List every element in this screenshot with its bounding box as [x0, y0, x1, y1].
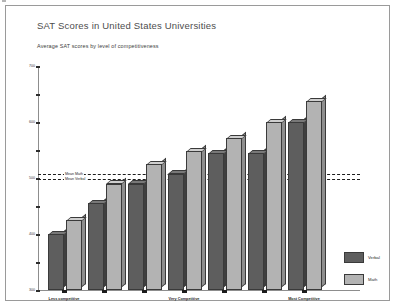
bar-face	[306, 101, 322, 290]
bar-side	[82, 214, 86, 287]
bar-group	[288, 65, 328, 290]
legend-swatch-math	[344, 274, 364, 285]
bar-face	[128, 184, 144, 290]
bar-verbal	[288, 122, 304, 290]
bar-side	[162, 158, 166, 287]
legend-label-verbal: Verbal	[368, 255, 380, 260]
x-axis-label: Most Competitive	[288, 297, 320, 301]
tick-mark	[36, 122, 40, 124]
bar-math	[226, 138, 242, 290]
chart-frame: SAT Scores in United States Universities…	[5, 5, 390, 301]
scan-artifact	[2, 0, 6, 2]
bar-side	[322, 95, 326, 287]
x-axis-tick	[182, 290, 187, 293]
bar-verbal	[88, 203, 104, 290]
x-axis-tick	[102, 290, 107, 293]
bar-verbal	[128, 184, 144, 290]
chart-subtitle: Average SAT scores by level of competiti…	[37, 43, 159, 49]
bar-verbal	[248, 153, 264, 290]
tick-mark	[36, 290, 40, 292]
x-axis-tick	[62, 290, 67, 293]
tick-mark	[36, 234, 40, 236]
x-axis-tick	[302, 290, 307, 293]
bar-face	[226, 138, 242, 290]
x-axis-tick	[142, 290, 147, 293]
bar-face	[186, 151, 202, 290]
bar-math	[306, 101, 322, 290]
y-axis-tick-label: 600	[29, 120, 35, 124]
bar-face	[266, 122, 282, 290]
tick-mark	[36, 150, 40, 152]
bar-face	[288, 122, 304, 290]
x-axis-line	[38, 290, 360, 291]
bar-side	[282, 116, 286, 287]
bar-face	[248, 153, 264, 290]
bar-math	[66, 220, 82, 290]
x-axis-tick	[262, 290, 267, 293]
legend-swatch-verbal	[344, 252, 364, 263]
bar-group	[48, 65, 88, 290]
bar-side	[242, 132, 246, 287]
bar-side	[122, 177, 126, 287]
bar-face	[66, 220, 82, 290]
bar-face	[146, 164, 162, 290]
bar-math	[106, 184, 122, 290]
y-axis-tick-label: 700	[29, 64, 35, 68]
plot-area: 300400500600700 Mean MathMean Verbal Les…	[38, 66, 360, 291]
bar-math	[186, 151, 202, 290]
tick-mark	[36, 262, 40, 264]
bar-group	[128, 65, 168, 290]
chart-legend: Verbal Math	[344, 252, 395, 296]
x-axis-label: Less competitive	[49, 297, 80, 301]
bar-group	[88, 65, 128, 290]
bar-verbal	[48, 234, 64, 290]
bar-face	[88, 203, 104, 290]
bar-math	[146, 164, 162, 290]
x-axis-label: Very Competitive	[169, 297, 200, 301]
bar-group	[168, 65, 208, 290]
bar-face	[48, 234, 64, 290]
bar-verbal	[168, 174, 184, 290]
bar-verbal	[208, 153, 224, 290]
tick-mark	[36, 206, 40, 208]
bar-side	[202, 145, 206, 287]
x-axis-tick	[222, 290, 227, 293]
bar-math	[266, 122, 282, 290]
y-axis-tick-label: 400	[29, 232, 35, 236]
chart-page: SAT Scores in United States Universities…	[0, 0, 395, 306]
bar-group	[248, 65, 288, 290]
tick-mark	[36, 94, 40, 96]
y-axis-tick-label: 500	[29, 176, 35, 180]
legend-label-math: Math	[368, 277, 377, 282]
y-axis-tick-label: 300	[29, 288, 35, 292]
bar-face	[106, 184, 122, 290]
bar-group	[208, 65, 248, 290]
legend-item-verbal: Verbal	[344, 252, 395, 269]
tick-mark	[36, 66, 40, 68]
bar-face	[208, 153, 224, 290]
bar-face	[168, 174, 184, 290]
legend-item-math: Math	[344, 274, 395, 291]
page-title: SAT Scores in United States Universities	[37, 20, 216, 31]
